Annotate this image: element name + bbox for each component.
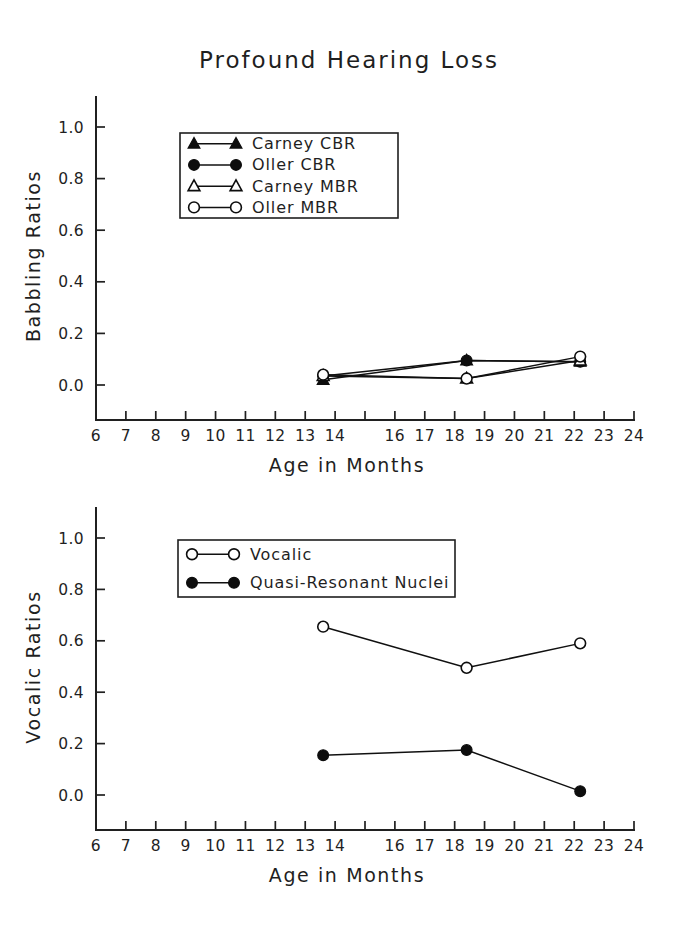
datapoint-bottom-1-2 — [575, 786, 586, 797]
datapoint-top-3-2 — [575, 351, 586, 362]
x-ticklabel-top-1: 7 — [121, 427, 131, 445]
x-axis-title-bottom: Age in Months — [269, 864, 425, 886]
figure-container: Profound Hearing Loss0.00.20.40.60.81.06… — [0, 0, 698, 935]
legend-label-top-3: Oller MBR — [252, 198, 339, 217]
datapoint-bottom-0-0 — [318, 621, 329, 632]
x-ticklabel-bottom-10: 16 — [385, 837, 406, 855]
series-line-bottom-0 — [323, 627, 580, 668]
legend-marker-b-bottom-1 — [229, 577, 240, 588]
x-ticklabel-top-18: 24 — [624, 427, 645, 445]
x-ticklabel-bottom-1: 7 — [121, 837, 131, 855]
x-ticklabel-bottom-2: 8 — [151, 837, 161, 855]
x-ticklabel-top-0: 6 — [91, 427, 101, 445]
datapoint-bottom-0-1 — [461, 662, 472, 673]
x-ticklabel-top-5: 11 — [235, 427, 256, 445]
x-ticklabel-top-6: 12 — [265, 427, 286, 445]
y-axis-title-top: Babbling Ratios — [22, 170, 44, 342]
legend-marker-a-top-1 — [189, 159, 200, 170]
figure-canvas: Profound Hearing Loss0.00.20.40.60.81.06… — [0, 0, 698, 935]
x-ticklabel-top-10: 16 — [385, 427, 406, 445]
x-axis-title-top: Age in Months — [269, 454, 425, 476]
y-ticklabel-bottom-1: 0.2 — [58, 735, 84, 753]
x-ticklabel-bottom-15: 21 — [534, 837, 555, 855]
x-ticklabel-top-11: 17 — [415, 427, 436, 445]
y-axis-title-bottom: Vocalic Ratios — [22, 590, 44, 743]
x-ticklabel-bottom-0: 6 — [91, 837, 101, 855]
x-ticklabel-bottom-14: 20 — [504, 837, 525, 855]
datapoint-bottom-1-0 — [318, 750, 329, 761]
x-ticklabel-top-16: 22 — [564, 427, 585, 445]
y-ticklabel-bottom-0: 0.0 — [58, 787, 84, 805]
x-ticklabel-top-12: 18 — [444, 427, 465, 445]
x-ticklabel-bottom-12: 18 — [444, 837, 465, 855]
x-ticklabel-top-7: 13 — [295, 427, 316, 445]
x-ticklabel-bottom-13: 19 — [474, 837, 495, 855]
x-ticklabel-bottom-8: 14 — [325, 837, 346, 855]
datapoint-top-3-0 — [318, 369, 329, 380]
x-ticklabel-top-3: 9 — [181, 427, 191, 445]
legend-marker-a-top-3 — [189, 202, 200, 213]
legend-label-top-1: Oller CBR — [252, 155, 336, 174]
x-ticklabel-bottom-4: 10 — [205, 837, 226, 855]
x-ticklabel-top-8: 14 — [325, 427, 346, 445]
x-ticklabel-top-17: 23 — [594, 427, 615, 445]
x-ticklabel-top-15: 21 — [534, 427, 555, 445]
series-line-top-1 — [323, 360, 580, 375]
y-ticklabel-bottom-2: 0.4 — [58, 684, 84, 702]
datapoint-top-3-1 — [461, 373, 472, 384]
y-ticklabel-bottom-3: 0.6 — [58, 632, 84, 650]
y-ticklabel-top-3: 0.6 — [58, 222, 84, 240]
x-ticklabel-bottom-3: 9 — [181, 837, 191, 855]
legend-label-bottom-1: Quasi-Resonant Nuclei — [250, 573, 449, 592]
y-ticklabel-top-0: 0.0 — [58, 377, 84, 395]
legend-label-top-0: Carney CBR — [252, 134, 356, 153]
x-ticklabel-bottom-7: 13 — [295, 837, 316, 855]
y-ticklabel-bottom-5: 1.0 — [58, 530, 84, 548]
x-ticklabel-bottom-6: 12 — [265, 837, 286, 855]
y-ticklabel-top-2: 0.4 — [58, 273, 84, 291]
x-ticklabel-top-14: 20 — [504, 427, 525, 445]
legend-marker-a-bottom-1 — [187, 577, 198, 588]
y-ticklabel-top-5: 1.0 — [58, 119, 84, 137]
y-ticklabel-top-4: 0.8 — [58, 170, 84, 188]
x-ticklabel-top-13: 19 — [474, 427, 495, 445]
x-ticklabel-bottom-16: 22 — [564, 837, 585, 855]
y-ticklabel-top-1: 0.2 — [58, 325, 84, 343]
datapoint-top-1-1 — [461, 355, 472, 366]
legend-label-bottom-0: Vocalic — [250, 545, 312, 564]
x-ticklabel-top-4: 10 — [205, 427, 226, 445]
x-ticklabel-bottom-5: 11 — [235, 837, 256, 855]
x-ticklabel-bottom-18: 24 — [624, 837, 645, 855]
x-ticklabel-top-2: 8 — [151, 427, 161, 445]
datapoint-bottom-1-1 — [461, 745, 472, 756]
y-ticklabel-bottom-4: 0.8 — [58, 581, 84, 599]
x-ticklabel-bottom-17: 23 — [594, 837, 615, 855]
x-ticklabel-bottom-11: 17 — [415, 837, 436, 855]
legend-label-top-2: Carney MBR — [252, 177, 359, 196]
legend-marker-a-bottom-0 — [187, 549, 198, 560]
legend-marker-b-top-3 — [231, 202, 242, 213]
series-line-top-3 — [323, 357, 580, 379]
figure-title: Profound Hearing Loss — [199, 47, 499, 73]
legend-marker-b-bottom-0 — [229, 549, 240, 560]
legend-marker-b-top-1 — [231, 159, 242, 170]
series-line-bottom-1 — [323, 750, 580, 791]
datapoint-bottom-0-2 — [575, 638, 586, 649]
